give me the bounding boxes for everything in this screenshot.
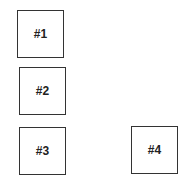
box-4: #4 (131, 126, 178, 174)
box-4-label: #4 (148, 143, 162, 157)
box-3: #3 (19, 127, 66, 175)
box-2: #2 (19, 67, 66, 115)
box-1: #1 (17, 10, 64, 58)
box-3-label: #3 (36, 144, 50, 158)
box-1-label: #1 (34, 27, 48, 41)
box-2-label: #2 (36, 84, 50, 98)
